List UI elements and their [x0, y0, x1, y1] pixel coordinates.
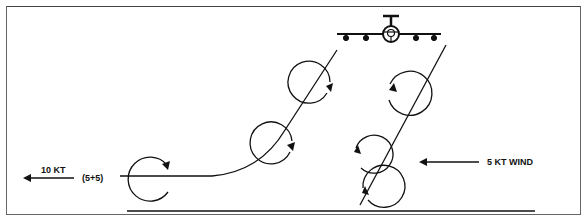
left-wind-breakdown-label: (5+5)	[82, 173, 103, 183]
left-vortex-circles	[128, 61, 330, 201]
wake-vortex-diagram	[0, 0, 587, 221]
left-wind-speed-label: 10 KT	[41, 165, 66, 175]
right-wind-label: 5 KT WIND	[487, 157, 533, 167]
aircraft-icon	[337, 16, 441, 42]
right-vortex-arrowheads	[354, 83, 397, 195]
right-vortex-trail	[360, 45, 446, 205]
